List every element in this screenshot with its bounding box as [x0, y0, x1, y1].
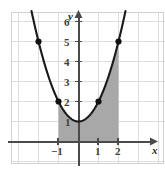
axes-group — [8, 10, 158, 166]
data-point — [35, 38, 41, 44]
graph-figure: 6 5 4 3 2 1 −1 1 2 y x — [0, 0, 165, 173]
y-tick-label-3: 3 — [64, 77, 70, 88]
data-point — [95, 98, 101, 104]
y-tick-label-5: 5 — [64, 37, 70, 48]
y-tick-label-4: 4 — [64, 57, 70, 68]
x-tick-label--1: −1 — [51, 146, 63, 157]
parabola-plot — [0, 0, 165, 173]
data-point — [115, 38, 121, 44]
y-axis-arrow — [75, 10, 83, 18]
data-point — [55, 98, 61, 104]
y-tick-label-1: 1 — [65, 117, 71, 128]
y-axis-label: y — [68, 11, 73, 22]
x-axis-label: x — [152, 145, 158, 156]
x-tick-label-1: 1 — [95, 146, 101, 157]
y-tick-label-2: 2 — [64, 97, 70, 108]
x-tick-label-2: 2 — [115, 146, 121, 157]
